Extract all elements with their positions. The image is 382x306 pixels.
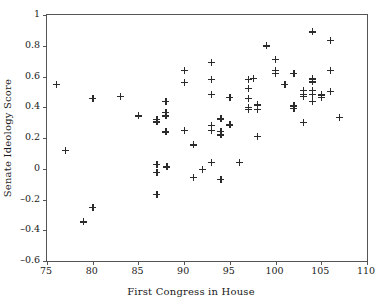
data-point bbox=[245, 104, 252, 111]
data-point bbox=[217, 128, 224, 135]
y-axis-tick-label: –0.2 bbox=[20, 194, 40, 204]
plot-area bbox=[46, 14, 368, 262]
data-point bbox=[309, 75, 316, 82]
y-axis-tick bbox=[43, 230, 47, 231]
data-point bbox=[208, 59, 215, 66]
data-point bbox=[327, 37, 334, 44]
data-point bbox=[281, 81, 288, 88]
data-point bbox=[181, 67, 188, 74]
data-point bbox=[272, 67, 279, 74]
x-axis-tick-label: 85 bbox=[131, 266, 143, 276]
data-point bbox=[217, 131, 224, 138]
y-axis-title: Senate Ideology Score bbox=[2, 14, 16, 262]
data-point bbox=[300, 87, 307, 94]
y-axis-tick bbox=[43, 138, 47, 139]
data-point bbox=[153, 169, 160, 176]
y-axis-tick-label: 0 bbox=[34, 163, 40, 173]
data-point bbox=[153, 118, 160, 125]
data-point bbox=[162, 98, 169, 105]
x-axis-tick-label: 100 bbox=[265, 266, 283, 276]
data-points-layer bbox=[47, 15, 367, 261]
x-axis-tick-label: 75 bbox=[40, 266, 52, 276]
data-point bbox=[290, 70, 297, 77]
x-axis-tick-label: 105 bbox=[311, 266, 329, 276]
data-point bbox=[327, 88, 334, 95]
data-point bbox=[208, 91, 215, 98]
y-axis-tick-label: 0.6 bbox=[25, 71, 40, 81]
data-point bbox=[89, 204, 96, 211]
data-point bbox=[254, 106, 261, 113]
data-point bbox=[199, 166, 206, 173]
x-axis-tick-label: 110 bbox=[357, 266, 375, 276]
data-point bbox=[309, 87, 316, 94]
data-point bbox=[153, 116, 160, 123]
scatter-chart-figure: 10.80.60.40.20–0.2–0.4–0.675808590951001… bbox=[0, 0, 382, 306]
y-axis-tick bbox=[43, 15, 47, 16]
data-point bbox=[245, 85, 252, 92]
data-point bbox=[245, 76, 252, 83]
data-point bbox=[290, 105, 297, 112]
y-axis-tick-label: –0.4 bbox=[20, 224, 40, 234]
data-point bbox=[318, 91, 325, 98]
data-point bbox=[300, 93, 307, 100]
x-axis-tick-label: 80 bbox=[86, 266, 98, 276]
data-point bbox=[300, 91, 307, 98]
data-point bbox=[272, 56, 279, 63]
y-axis-tick bbox=[43, 169, 47, 170]
y-axis-tick-label: 0.8 bbox=[25, 40, 40, 50]
y-axis-tick bbox=[43, 200, 47, 201]
data-point bbox=[53, 81, 60, 88]
data-point bbox=[254, 101, 261, 108]
y-axis-tick bbox=[43, 107, 47, 108]
data-point bbox=[318, 94, 325, 101]
data-point bbox=[181, 127, 188, 134]
data-point bbox=[208, 159, 215, 166]
data-point bbox=[272, 70, 279, 77]
data-point bbox=[226, 94, 233, 101]
y-axis-tick-label: 0.2 bbox=[25, 132, 40, 142]
data-point bbox=[80, 218, 87, 225]
y-axis-tick bbox=[43, 77, 47, 78]
data-point bbox=[89, 95, 96, 102]
x-axis-title: First Congress in House bbox=[0, 286, 382, 297]
data-point bbox=[217, 115, 224, 122]
data-point bbox=[217, 176, 224, 183]
x-axis-tick-label: 95 bbox=[223, 266, 235, 276]
data-point bbox=[309, 91, 316, 98]
data-point bbox=[162, 109, 169, 116]
data-point bbox=[163, 163, 170, 170]
x-axis-tick-label: 90 bbox=[177, 266, 189, 276]
data-point bbox=[162, 112, 169, 119]
data-point bbox=[309, 28, 316, 35]
data-point bbox=[254, 133, 261, 140]
data-point bbox=[62, 147, 69, 154]
data-point bbox=[300, 119, 307, 126]
y-axis-tick bbox=[43, 46, 47, 47]
data-point bbox=[208, 76, 215, 83]
data-point bbox=[336, 114, 343, 121]
y-axis-tick-label: 1 bbox=[34, 9, 40, 19]
data-point bbox=[153, 191, 160, 198]
y-axis-tick-label: 0.4 bbox=[25, 101, 40, 111]
y-axis-tick-label: –0.6 bbox=[20, 255, 40, 265]
data-point bbox=[135, 112, 142, 119]
data-point bbox=[117, 93, 124, 100]
data-point bbox=[245, 106, 252, 113]
data-point bbox=[226, 121, 233, 128]
data-point bbox=[153, 161, 160, 168]
data-point bbox=[327, 67, 334, 74]
data-point bbox=[208, 127, 215, 134]
data-point bbox=[162, 128, 169, 135]
data-point bbox=[290, 102, 297, 109]
data-point bbox=[181, 79, 188, 86]
data-point bbox=[250, 75, 257, 82]
data-point bbox=[245, 95, 252, 102]
data-point bbox=[208, 122, 215, 129]
data-point bbox=[190, 141, 197, 148]
data-point bbox=[309, 78, 316, 85]
data-point bbox=[236, 159, 243, 166]
data-point bbox=[190, 174, 197, 181]
data-point bbox=[263, 42, 270, 49]
data-point bbox=[309, 98, 316, 105]
